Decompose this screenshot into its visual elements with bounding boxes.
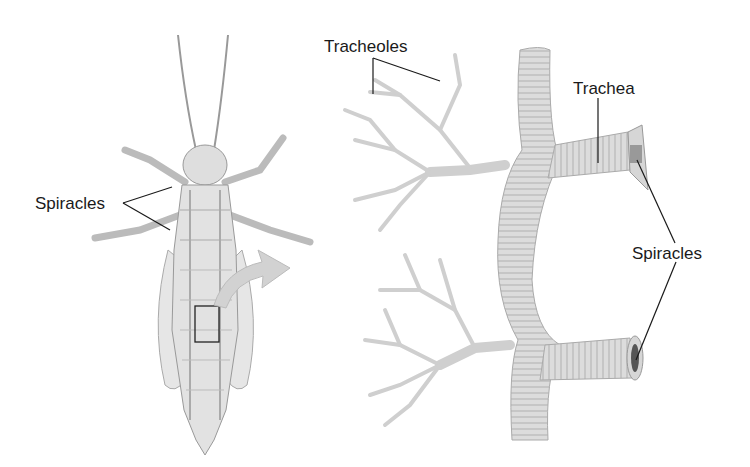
- tracheal-system-diagram: [0, 0, 750, 467]
- label-spiracles-left: Spiracles: [35, 195, 105, 212]
- tracheal-tubes: [345, 48, 648, 441]
- label-tracheoles: Tracheoles: [324, 38, 407, 55]
- grasshopper-illustration: [95, 35, 310, 455]
- label-spiracles-right: Spiracles: [632, 245, 702, 262]
- label-trachea: Trachea: [573, 80, 635, 97]
